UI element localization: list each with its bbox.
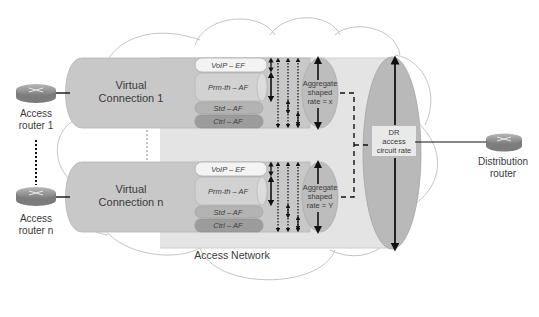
virtual-connection-n: Virtual Connection n VoIP – EF Prm-th – … <box>66 162 339 232</box>
vc1-label-line1: Virtual <box>116 79 147 91</box>
distribution-router[interactable]: Distribution router <box>478 134 528 180</box>
access-router-n-label-line2: router n <box>19 225 53 236</box>
vcn-aggregate-line1: Aggregate <box>303 183 338 192</box>
vc1-std-label: Std – AF <box>214 104 243 113</box>
vc1-label-line2: Connection 1 <box>99 92 164 104</box>
vc1-aggregate-line2: shaped <box>308 88 333 97</box>
vcn-ctrl-label: Ctrl – AF <box>213 221 243 230</box>
dr-label-line1: DR <box>389 128 400 137</box>
access-router-n-label-line1: Access <box>20 213 52 224</box>
access-network-label: Access Network <box>194 249 270 261</box>
vcn-prm-label: Prm-th – AF <box>208 187 249 196</box>
vcn-voip-label: VoIP – EF <box>211 165 245 174</box>
vc1-aggregate-line3: rate = x <box>307 97 332 106</box>
vc1-aggregate-line1: Aggregate <box>303 79 338 88</box>
access-router-1-label-line1: Access <box>20 108 52 119</box>
vcn-label-line2: Connection n <box>99 196 164 208</box>
access-router-n[interactable]: Access router n <box>16 187 56 236</box>
dr-label-line3: circuit rate <box>377 146 412 155</box>
vc1-ctrl-label: Ctrl – AF <box>213 117 243 126</box>
diagram-canvas: Virtual Connection 1 VoIP – EF Prm-th – … <box>0 0 539 317</box>
virtual-connection-1: Virtual Connection 1 VoIP – EF Prm-th – … <box>66 58 339 128</box>
access-router-1-label-line2: router 1 <box>19 120 54 131</box>
distribution-router-label-line2: router <box>490 168 517 179</box>
access-router-1[interactable]: Access router 1 <box>16 84 56 131</box>
vcn-std-label: Std – AF <box>214 208 243 217</box>
vcn-aggregate-line2: shaped <box>308 192 333 201</box>
vcn-label-line1: Virtual <box>116 183 147 195</box>
distribution-router-label-line1: Distribution <box>478 156 528 167</box>
vcn-aggregate-line3: rate = Y <box>307 201 333 210</box>
vc1-prm-label: Prm-th – AF <box>208 83 249 92</box>
vc1-voip-label: VoIP – EF <box>211 61 245 70</box>
dr-label-line2: access <box>382 137 406 146</box>
